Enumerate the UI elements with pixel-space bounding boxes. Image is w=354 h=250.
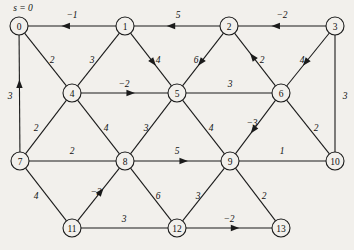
edge-weight-11-8: −2 bbox=[90, 187, 101, 197]
edge-weight-2-1: 5 bbox=[176, 10, 181, 20]
edge-weight-0-4: 2 bbox=[50, 55, 55, 65]
graph-node-6[interactable]: 6 bbox=[272, 84, 290, 102]
edge-weight-3-2: −2 bbox=[276, 10, 287, 20]
graph-node-13[interactable]: 13 bbox=[272, 219, 290, 237]
arrowhead-8-9 bbox=[179, 158, 188, 164]
edge-weight-3-6: 4 bbox=[300, 55, 305, 65]
node-label-2: 2 bbox=[227, 22, 232, 32]
graph-node-10[interactable]: 10 bbox=[326, 152, 344, 170]
graph-diagram-canvas: −15−23234624−2332434−322514−26323−2 0123… bbox=[0, 0, 354, 250]
node-label-6: 6 bbox=[279, 89, 284, 99]
arrowhead-12-13 bbox=[231, 225, 240, 231]
edge-7-0 bbox=[19, 35, 20, 152]
edge-9-12 bbox=[183, 168, 225, 221]
node-label-7: 7 bbox=[18, 157, 23, 167]
graph-node-11[interactable]: 11 bbox=[63, 219, 81, 237]
edge-5-9 bbox=[183, 100, 225, 154]
edge-weight-4-8: 4 bbox=[104, 123, 109, 133]
node-label-10: 10 bbox=[330, 157, 340, 167]
edge-weight-6-2: 2 bbox=[260, 55, 265, 65]
edge-weight-3-10: 3 bbox=[342, 91, 348, 101]
node-label-12: 12 bbox=[172, 224, 182, 234]
edge-7-11 bbox=[26, 168, 67, 221]
edge-7-4 bbox=[25, 100, 66, 154]
node-label-9: 9 bbox=[228, 157, 233, 167]
edge-weight-4-1: 3 bbox=[89, 55, 95, 65]
graph-node-5[interactable]: 5 bbox=[168, 84, 186, 102]
edge-0-4 bbox=[25, 33, 67, 86]
edge-weight-6-9: −3 bbox=[246, 118, 257, 128]
edges-layer bbox=[19, 26, 335, 228]
edge-weight-9-10: 1 bbox=[280, 146, 285, 156]
graph-node-9[interactable]: 9 bbox=[221, 152, 239, 170]
edge-weight-8-9: 5 bbox=[175, 146, 180, 156]
edge-weight-7-8: 2 bbox=[70, 146, 75, 156]
nodes-layer: 012345678910111213 bbox=[10, 17, 344, 237]
edge-4-8 bbox=[78, 100, 120, 154]
edge-weight-9-12: 3 bbox=[195, 191, 201, 201]
graph-node-12[interactable]: 12 bbox=[168, 219, 186, 237]
edge-weight-1-5: 4 bbox=[156, 55, 161, 65]
graph-node-2[interactable]: 2 bbox=[220, 17, 238, 35]
node-label-13: 13 bbox=[276, 224, 286, 234]
node-label-3: 3 bbox=[333, 22, 338, 32]
arrowhead-1-0 bbox=[61, 23, 70, 29]
arrowhead-3-2 bbox=[271, 23, 280, 29]
edge-labels-layer: −15−23234624−2332434−322514−26323−2 bbox=[7, 10, 348, 224]
graph-node-4[interactable]: 4 bbox=[63, 84, 81, 102]
edge-weight-2-5: 6 bbox=[194, 55, 199, 65]
node-label-5: 5 bbox=[175, 89, 180, 99]
graph-node-0[interactable]: 0 bbox=[10, 17, 28, 35]
graph-node-8[interactable]: 8 bbox=[116, 152, 134, 170]
edge-weight-4-5: −2 bbox=[118, 79, 129, 89]
node-label-1: 1 bbox=[123, 22, 128, 32]
source-annotation-label: s = 0 bbox=[13, 3, 33, 13]
edge-weight-5-9: 4 bbox=[209, 123, 214, 133]
arrowhead-4-5 bbox=[126, 90, 135, 96]
arrowheads-layer bbox=[16, 23, 310, 231]
graph-node-7[interactable]: 7 bbox=[11, 152, 29, 170]
graph-node-3[interactable]: 3 bbox=[326, 17, 344, 35]
edge-8-12 bbox=[131, 168, 172, 221]
edge-weight-7-4: 2 bbox=[34, 123, 39, 133]
edge-weight-8-12: 6 bbox=[156, 191, 161, 201]
node-label-0: 0 bbox=[17, 22, 22, 32]
edge-weight-7-0: 3 bbox=[7, 91, 13, 101]
arrowhead-2-5 bbox=[198, 57, 206, 66]
edge-weight-1-0: −1 bbox=[66, 10, 77, 20]
arrowhead-6-2 bbox=[250, 53, 258, 62]
edge-weight-5-6: 3 bbox=[227, 79, 233, 89]
arrowhead-2-1 bbox=[167, 23, 176, 29]
edge-9-13 bbox=[235, 168, 275, 221]
edge-weight-11-12: 3 bbox=[121, 214, 127, 224]
node-label-4: 4 bbox=[70, 89, 75, 99]
edge-4-1 bbox=[78, 33, 120, 86]
edge-weight-6-10: 2 bbox=[314, 123, 319, 133]
node-label-11: 11 bbox=[67, 224, 76, 234]
node-label-8: 8 bbox=[123, 157, 128, 167]
arrowhead-7-0 bbox=[16, 79, 22, 88]
edge-6-10 bbox=[287, 100, 330, 154]
edge-weight-12-13: −2 bbox=[223, 214, 234, 224]
edge-weight-9-13: 2 bbox=[262, 191, 267, 201]
graph-node-1[interactable]: 1 bbox=[116, 17, 134, 35]
edge-weight-8-5: 3 bbox=[143, 123, 149, 133]
edge-8-5 bbox=[130, 100, 171, 154]
graph-svg: −15−23234624−2332434−322514−26323−2 0123… bbox=[0, 0, 354, 250]
edge-weight-7-11: 4 bbox=[34, 191, 39, 201]
